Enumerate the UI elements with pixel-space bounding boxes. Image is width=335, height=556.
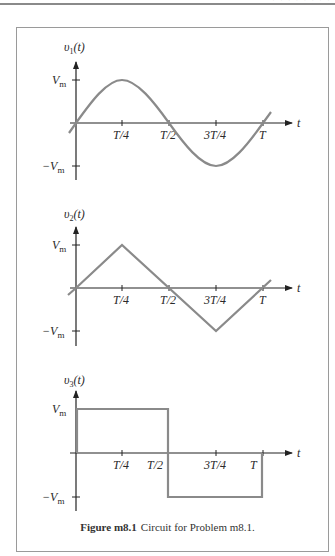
svg-text:t: t xyxy=(297,446,301,460)
figure-plots: υ1(t) t Vm −Vm T/4 T/2 3T/4 T υ2(t) t Vm… xyxy=(0,0,335,556)
plot3-ylabel: υ3(t) xyxy=(64,373,85,389)
svg-text:T/2: T/2 xyxy=(160,293,176,307)
plot2-ylabel: υ2(t) xyxy=(64,207,85,223)
svg-text:Vm: Vm xyxy=(52,402,66,418)
svg-text:3T/4: 3T/4 xyxy=(203,128,226,142)
plot1-neg-vm-label: −Vm xyxy=(42,159,64,175)
figure-caption-text: Circuit for Problem m8.1. xyxy=(141,521,255,533)
plot-v1: υ1(t) t Vm −Vm T/4 T/2 3T/4 T xyxy=(42,40,301,180)
svg-text:−Vm: −Vm xyxy=(42,490,64,506)
plot1-vm-label: Vm xyxy=(52,73,66,89)
svg-text:T: T xyxy=(259,128,267,142)
plot-v3: υ3(t) t Vm −Vm T/4 T/2 3T/4 T xyxy=(42,373,301,511)
figure-caption-label: Figure m8.1 xyxy=(80,521,137,533)
plot-v2: υ2(t) t Vm −Vm T/4 T/2 3T/4 T xyxy=(42,207,301,346)
svg-text:T/4: T/4 xyxy=(113,293,129,307)
svg-text:t: t xyxy=(297,281,301,295)
svg-text:T/4: T/4 xyxy=(113,128,129,142)
svg-text:T/2: T/2 xyxy=(147,458,163,472)
svg-text:T/4: T/4 xyxy=(113,458,129,472)
svg-text:−Vm: −Vm xyxy=(42,324,64,340)
svg-text:T: T xyxy=(259,293,267,307)
plot1-xlabel: t xyxy=(297,116,301,130)
svg-text:3T/4: 3T/4 xyxy=(203,458,226,472)
svg-text:T: T xyxy=(250,458,258,472)
figure-caption: Figure m8.1Circuit for Problem m8.1. xyxy=(0,521,335,533)
svg-text:Vm: Vm xyxy=(52,238,66,254)
plot1-ylabel: υ1(t) xyxy=(64,40,85,56)
svg-text:3T/4: 3T/4 xyxy=(203,293,226,307)
